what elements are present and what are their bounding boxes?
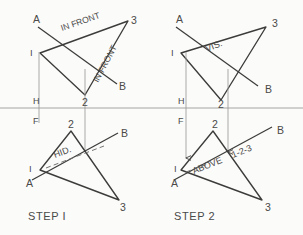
label-point-b: B (277, 124, 284, 136)
label-plane-h: H (178, 96, 185, 106)
label-point-a: A (26, 177, 33, 189)
line-ab-top (176, 27, 258, 86)
descriptive-geometry-plate: A B I 2 3 H IN FRONT IN FRONT F A B I 2 … (0, 0, 303, 235)
label-vertex-2: 2 (212, 118, 218, 130)
label-vertex-1: I (30, 47, 33, 58)
label-vertex-3: 3 (120, 201, 126, 213)
caption-step-2: STEP 2 (174, 210, 215, 222)
label-vertex-1: I (171, 47, 174, 58)
label-vertex-2: 2 (68, 118, 74, 130)
step1-top-view (38, 21, 128, 152)
note-in-front-lower: IN FRONT (91, 43, 119, 84)
note-above: ABOVE (191, 155, 224, 176)
label-point-a: A (33, 13, 40, 25)
label-vertex-3: 3 (265, 201, 271, 213)
label-vertex-1: I (29, 163, 32, 174)
drawing-sheet: A B I 2 3 H IN FRONT IN FRONT F A B I 2 … (0, 0, 303, 235)
label-plane-f: F (33, 116, 39, 126)
label-vertex-3: 3 (272, 17, 278, 29)
label-vertex-2: 2 (218, 98, 224, 110)
line-ab-front (32, 133, 118, 180)
label-point-a: A (171, 177, 178, 189)
label-point-a: A (176, 13, 183, 25)
label-vertex-1: I (174, 163, 177, 174)
label-point-b: B (121, 127, 128, 139)
line-ab-front (174, 127, 272, 180)
label-plane-f: F (178, 116, 184, 126)
note-hidden: HID. (52, 144, 72, 160)
note-visible: VIS. (204, 38, 224, 54)
label-vertex-2: 2 (82, 96, 88, 108)
label-plane-h: H (33, 96, 40, 106)
label-vertex-3: 3 (131, 14, 137, 26)
label-point-b: B (265, 83, 272, 95)
triangle-1-2-3-top (40, 21, 128, 95)
step1-front-view (32, 131, 119, 200)
triangle-1-2-3-top (181, 27, 266, 100)
caption-step-1: STEP I (28, 210, 66, 222)
note-in-front-upper: IN FRONT (59, 10, 101, 33)
label-point-b: B (119, 80, 126, 92)
note-above-triangle-ref: 1-2-3 (230, 143, 253, 160)
triangle-1-2-3-front (40, 131, 119, 200)
